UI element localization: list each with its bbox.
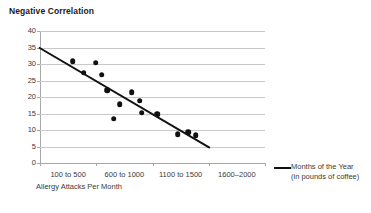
data-point bbox=[185, 130, 191, 136]
data-point bbox=[154, 112, 160, 118]
data-point bbox=[93, 60, 99, 66]
data-point bbox=[129, 90, 135, 96]
data-point bbox=[104, 87, 110, 93]
legend-series-sub: (in pounds of coffee) bbox=[291, 172, 359, 182]
data-point bbox=[117, 101, 123, 107]
data-point bbox=[137, 98, 143, 104]
data-point bbox=[99, 72, 105, 78]
data-point bbox=[139, 110, 145, 116]
legend-line-swatch bbox=[274, 167, 291, 169]
data-point bbox=[81, 70, 87, 76]
data-point bbox=[193, 132, 199, 138]
data-point bbox=[70, 59, 76, 65]
chart-legend: Months of the Year (in pounds of coffee) bbox=[274, 162, 359, 182]
data-point bbox=[175, 131, 181, 137]
legend-label: Months of the Year (in pounds of coffee) bbox=[291, 162, 359, 182]
legend-series-name: Months of the Year bbox=[291, 162, 354, 171]
data-point bbox=[111, 116, 117, 122]
negative-correlation-chart: Negative Correlation 0510152025303540 10… bbox=[0, 0, 371, 213]
